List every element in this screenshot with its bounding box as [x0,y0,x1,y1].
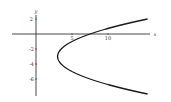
y-tick-label-m6: -6 [29,76,34,82]
parabola-chart: 5 10 2 -2 -4 -6 x y [0,0,171,102]
y-axis-label: y [34,8,38,15]
x-tick-label-10: 10 [105,35,111,41]
y-tick-label-m4: -4 [29,61,34,67]
x-tick-label-5: 5 [70,35,73,41]
y-tick-label-m2: -2 [29,46,34,52]
y-tick-label-2: 2 [30,16,33,22]
parabola-curve [58,19,148,94]
x-axis-label: x [154,31,157,37]
